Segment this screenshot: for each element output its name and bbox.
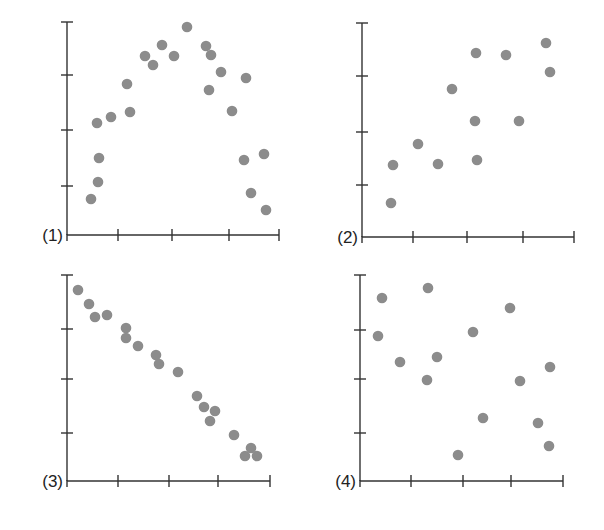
- data-point: [533, 418, 544, 429]
- data-point: [470, 116, 481, 127]
- scatter-panel-1: (1): [42, 22, 279, 245]
- scatter-panel-3: (3): [42, 275, 270, 491]
- data-point: [182, 22, 193, 33]
- data-point: [121, 333, 132, 344]
- data-point: [205, 416, 216, 427]
- data-point: [388, 160, 399, 171]
- data-point: [229, 430, 240, 441]
- data-point: [377, 293, 388, 304]
- panel-label: (3): [42, 472, 63, 491]
- data-point: [413, 139, 424, 150]
- data-point: [169, 51, 180, 62]
- data-point: [106, 112, 117, 123]
- data-point: [544, 441, 555, 452]
- data-point: [227, 106, 238, 117]
- data-point: [423, 283, 434, 294]
- panel-label: (1): [42, 226, 63, 245]
- data-point: [199, 402, 210, 413]
- data-point: [468, 327, 479, 338]
- data-point: [447, 84, 458, 95]
- data-point: [92, 118, 103, 129]
- data-point: [501, 50, 512, 61]
- data-point: [373, 331, 384, 342]
- data-point: [151, 350, 162, 361]
- data-point: [210, 406, 221, 417]
- data-point: [86, 194, 97, 205]
- data-point: [216, 67, 227, 78]
- scatter-panel-2: (2): [337, 23, 574, 247]
- data-point: [395, 357, 406, 368]
- data-point: [204, 85, 215, 96]
- data-point: [84, 299, 95, 310]
- data-point: [422, 375, 433, 386]
- data-point: [173, 367, 184, 378]
- data-point: [432, 352, 443, 363]
- data-point: [545, 362, 556, 373]
- data-point: [154, 359, 165, 370]
- data-point: [261, 205, 272, 216]
- data-point: [133, 341, 144, 352]
- data-point: [541, 38, 552, 49]
- data-point: [90, 312, 101, 323]
- panel-label: (2): [337, 228, 358, 247]
- data-point: [545, 67, 556, 78]
- data-point: [505, 303, 516, 314]
- data-point: [252, 451, 263, 462]
- data-point: [433, 159, 444, 170]
- data-point: [246, 188, 257, 199]
- data-point: [93, 177, 104, 188]
- data-point: [157, 40, 168, 51]
- data-point: [125, 107, 136, 118]
- data-point: [122, 79, 133, 90]
- scatter-plot-grid: (1) (2) (3) (4): [0, 0, 604, 530]
- data-point: [102, 310, 113, 321]
- data-point: [515, 376, 526, 387]
- data-point: [206, 50, 217, 61]
- data-point: [239, 155, 250, 166]
- data-point: [192, 391, 203, 402]
- data-point: [472, 155, 483, 166]
- data-point: [121, 323, 132, 334]
- data-point: [471, 48, 482, 59]
- data-point: [478, 413, 489, 424]
- data-point: [73, 285, 84, 296]
- data-point: [94, 153, 105, 164]
- data-point: [148, 60, 159, 71]
- data-point: [386, 198, 397, 209]
- scatter-panel-4: (4): [335, 275, 563, 491]
- data-point: [514, 116, 525, 127]
- data-point: [453, 450, 464, 461]
- data-point: [201, 41, 212, 52]
- panel-label: (4): [335, 472, 356, 491]
- data-point: [259, 149, 270, 160]
- data-point: [140, 51, 151, 62]
- data-point: [241, 73, 252, 84]
